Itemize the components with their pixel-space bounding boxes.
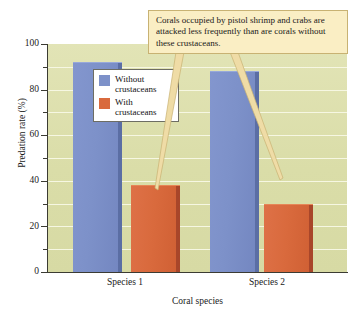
legend-swatch-icon-blue [99,75,110,86]
bar-species2-with-crustaceans[interactable] [264,204,313,272]
legend-label-line1: Without [115,74,144,84]
bar-species2-without-crustaceans[interactable] [210,71,259,272]
legend-label-line2: crustaceans [115,107,156,117]
bar-highlight-top [264,204,313,205]
y-tick-80 [41,90,47,91]
y-axis-title: Predation rate (%) [17,68,27,198]
bar-shadow-edge [309,204,313,272]
x-axis-line [47,272,348,273]
legend-label-with-crustaceans: With crustaceans [115,97,156,117]
legend-label-line2: crustaceans [115,84,156,94]
y-axis-label-20: 20 [9,222,39,232]
y-tick-minor-70 [43,112,47,113]
legend-label-line1: With [115,97,133,107]
legend-label-without-crustaceans: Without crustaceans [115,74,156,94]
legend-item-with-crustaceans[interactable]: With crustaceans [99,97,174,117]
y-tick-minor-30 [43,204,47,205]
callout-annotation: Corals occupied by pistol shrimp and cra… [148,10,348,54]
plot-area [47,44,347,272]
y-tick-minor-90 [43,67,47,68]
bar-shadow-edge [255,71,259,272]
x-axis-label-species-1: Species 1 [80,277,170,287]
bar-species1-with-crustaceans[interactable] [131,185,180,272]
bar-chart-figure: 100 80 60 40 20 0 Predation rate (%) Spe… [0,0,354,322]
bar-face [264,204,313,272]
x-axis-label-species-2: Species 2 [222,277,312,287]
bar-highlight-top [73,62,122,63]
y-tick-100 [41,44,47,45]
bar-highlight-top [131,185,180,186]
bar-face [131,185,180,272]
y-axis-line [47,44,48,273]
legend-item-without-crustaceans[interactable]: Without crustaceans [99,74,174,94]
bar-highlight-top [210,71,259,72]
legend-swatch-icon-orange [99,98,110,109]
y-tick-minor-10 [43,249,47,250]
y-axis-label-0: 0 [9,267,39,277]
y-axis-label-100: 100 [9,39,39,49]
y-tick-40 [41,181,47,182]
bar-shadow-edge [176,185,180,272]
y-tick-0 [41,272,47,273]
y-tick-20 [41,226,47,227]
y-tick-minor-50 [43,158,47,159]
legend: Without crustaceans With crustaceans [93,69,179,122]
x-axis-title: Coral species [47,296,348,306]
y-tick-60 [41,135,47,136]
bar-face [210,71,259,272]
